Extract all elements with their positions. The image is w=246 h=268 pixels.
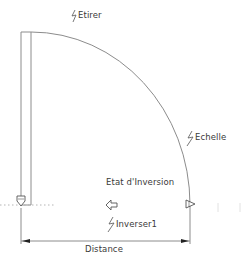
- flip-lightning-icon: [108, 217, 114, 232]
- flip-action-label: Inverser1: [116, 220, 157, 229]
- flip-state-label: Etat d'Inversion: [106, 178, 174, 187]
- stretch-lightning-icon: [72, 10, 76, 22]
- scale-lightning-icon: [187, 131, 193, 146]
- dimension-arrowhead-right-icon: [181, 239, 189, 243]
- stretch-parameter-label: Etirer: [78, 11, 102, 20]
- flip-arrow-grip-icon[interactable]: [106, 200, 117, 210]
- scale-parameter-label: Echelle: [195, 133, 226, 142]
- dimension-arrowhead-left-icon: [22, 239, 30, 243]
- distance-dimension-label: Distance: [85, 245, 123, 254]
